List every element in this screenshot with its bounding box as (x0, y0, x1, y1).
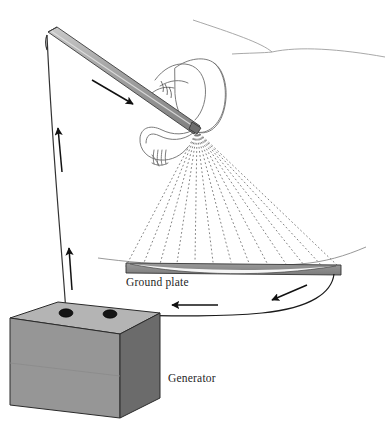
ground-plate (126, 263, 341, 275)
return-flow-arrows (172, 285, 307, 305)
spray-ray (197, 131, 286, 264)
flow-arrow-up (69, 248, 72, 290)
spray-ray (197, 131, 304, 265)
spray-ray (197, 131, 322, 266)
flow-arrow-up (58, 128, 62, 172)
electrostatic-spray-diagram: Ground plate Generator (0, 0, 385, 434)
generator-front-face (10, 318, 120, 418)
generator-label: Generator (168, 372, 216, 384)
generator (10, 302, 160, 418)
return-arrow-diagonal (272, 285, 307, 300)
operator-sleeve (140, 127, 196, 166)
generator-terminal-right (103, 310, 117, 318)
horizon-lines (193, 20, 385, 57)
ground-plate-label: Ground plate (126, 276, 189, 288)
spray-ray (197, 131, 231, 262)
spray-ray (197, 131, 267, 263)
spray-ray (195, 131, 197, 262)
current-flow-arrows-up (58, 128, 72, 290)
spray-ray (197, 131, 339, 267)
diagram-canvas (0, 0, 385, 434)
generator-terminal-left (59, 309, 73, 317)
supply-cable (46, 35, 67, 313)
